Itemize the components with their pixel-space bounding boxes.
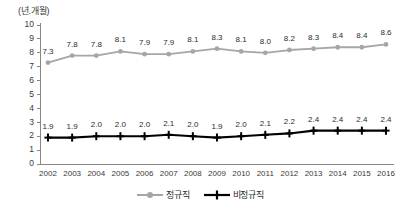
data-label-series-1: 8.1 <box>115 35 127 44</box>
chart-legend: 정규직 비정규직 <box>0 188 401 201</box>
series-marker-1 <box>70 53 75 58</box>
data-label-series-2: 2.0 <box>139 120 151 129</box>
data-label-series-1: 8.6 <box>380 28 392 37</box>
series-marker-2 <box>286 129 293 137</box>
data-label-series-1: 8.3 <box>308 33 320 42</box>
legend-label-series-1: 정규직 <box>166 188 189 201</box>
x-axis-tick-label: 2009 <box>208 169 226 178</box>
series-marker-1 <box>384 42 389 47</box>
y-axis-tick-label: 2 <box>29 130 34 140</box>
series-marker-2 <box>334 127 341 135</box>
x-axis-tick-label: 2006 <box>136 169 154 178</box>
data-label-series-1: 8.1 <box>187 35 199 44</box>
data-label-series-2: 2.0 <box>115 120 127 129</box>
series-marker-1 <box>335 45 340 50</box>
data-label-series-1: 7.9 <box>163 38 175 47</box>
x-axis-tick-label: 2002 <box>39 169 57 178</box>
chart-plot-area: 109876543210 200220032004200520062007200… <box>0 0 401 207</box>
series-marker-2 <box>262 131 269 139</box>
series-marker-1 <box>359 45 364 50</box>
y-axis-tick-label: 0 <box>29 158 34 168</box>
data-label-series-2: 2.1 <box>260 119 272 128</box>
series-marker-2 <box>382 127 389 135</box>
series-marker-2 <box>213 134 220 142</box>
y-axis-tick-label: 9 <box>29 33 34 43</box>
data-label-series-1: 8.4 <box>332 31 344 40</box>
data-label-series-2: 2.2 <box>284 117 296 126</box>
series-marker-2 <box>93 132 100 140</box>
legend-label-series-2: 비정규직 <box>233 188 264 201</box>
series-marker-2 <box>69 134 76 142</box>
series-marker-1 <box>311 46 316 51</box>
x-axis-tick-label: 2010 <box>232 169 250 178</box>
y-axis-tick-label: 1 <box>29 144 34 154</box>
y-axis-tick-label: 8 <box>29 47 34 57</box>
data-label-series-2: 2.4 <box>332 115 344 124</box>
legend-swatch-series-1 <box>137 190 163 200</box>
x-axis-tick-label: 2011 <box>257 169 275 178</box>
series-marker-1 <box>94 53 99 58</box>
x-axis-tick-label: 2013 <box>305 169 323 178</box>
x-axis-tick-label: 2015 <box>353 169 371 178</box>
data-label-series-2: 2.0 <box>91 120 103 129</box>
data-label-series-2: 1.9 <box>211 122 223 131</box>
series-marker-1 <box>142 52 147 57</box>
line-chart: (년.개월) 109876543210 20022003200420052006… <box>0 0 401 207</box>
y-axis-tick-label: 7 <box>29 61 34 71</box>
series-marker-1 <box>263 50 268 55</box>
series-marker-1 <box>190 49 195 54</box>
data-label-series-1: 7.9 <box>139 38 151 47</box>
data-label-series-2: 2.4 <box>380 115 392 124</box>
x-axis-tick-label: 2014 <box>329 169 347 178</box>
data-label-series-1: 7.8 <box>91 40 103 49</box>
data-label-series-1: 8.1 <box>236 35 248 44</box>
data-label-series-1: 7.3 <box>42 47 54 56</box>
x-axis-tick-label: 2005 <box>112 169 130 178</box>
series-marker-1 <box>166 52 171 57</box>
data-label-series-2: 2.0 <box>236 120 248 129</box>
data-label-series-1: 7.8 <box>67 40 79 49</box>
x-axis-tick-labels: 2002200320042005200620072008200920102011… <box>39 169 395 178</box>
legend-item-series-1[interactable]: 정규직 <box>137 188 189 201</box>
y-axis-tick-labels: 109876543210 <box>25 19 40 168</box>
data-label-series-1: 8.0 <box>260 37 272 46</box>
series-marker-1 <box>239 49 244 54</box>
legend-item-series-2[interactable]: 비정규직 <box>204 188 264 201</box>
series-marker-2 <box>44 134 51 142</box>
data-label-series-2: 2.4 <box>308 115 320 124</box>
series-marker-2 <box>165 131 172 139</box>
data-label-series-2: 2.1 <box>163 119 175 128</box>
data-label-series-2: 1.9 <box>67 122 79 131</box>
series-marker-1 <box>118 49 123 54</box>
series-marker-2 <box>141 132 148 140</box>
series-marker-2 <box>358 127 365 135</box>
series-marker-2 <box>117 132 124 140</box>
data-label-series-1: 8.3 <box>211 33 223 42</box>
data-label-series-1: 8.2 <box>284 34 296 43</box>
y-axis-tick-label: 6 <box>29 75 34 85</box>
series-marker-2 <box>238 132 245 140</box>
x-axis-tick-label: 2008 <box>184 169 202 178</box>
series-marker-1 <box>215 46 220 51</box>
legend-swatch-series-2 <box>204 190 230 200</box>
x-axis-tick-label: 2007 <box>160 169 178 178</box>
x-axis-tick-label: 2003 <box>63 169 81 178</box>
data-label-series-2: 2.4 <box>356 115 368 124</box>
y-axis-tick-label: 5 <box>29 89 34 99</box>
data-label-series-2: 2.0 <box>187 120 199 129</box>
series-marker-1 <box>287 48 292 53</box>
y-axis-tick-label: 10 <box>25 19 35 29</box>
data-point-labels: 7.37.87.88.17.97.98.18.38.18.08.28.38.48… <box>42 28 392 130</box>
series-marker-1 <box>46 60 51 65</box>
series-marker-2 <box>189 132 196 140</box>
data-label-series-1: 8.4 <box>356 31 368 40</box>
x-axis-tick-label: 2016 <box>377 169 395 178</box>
x-axis-tick-label: 2004 <box>87 169 105 178</box>
y-axis-tick-label: 4 <box>29 103 34 113</box>
y-axis-tick-label: 3 <box>29 117 34 127</box>
series-marker-2 <box>310 127 317 135</box>
data-label-series-2: 1.9 <box>42 122 54 131</box>
x-axis-tick-label: 2012 <box>281 169 299 178</box>
